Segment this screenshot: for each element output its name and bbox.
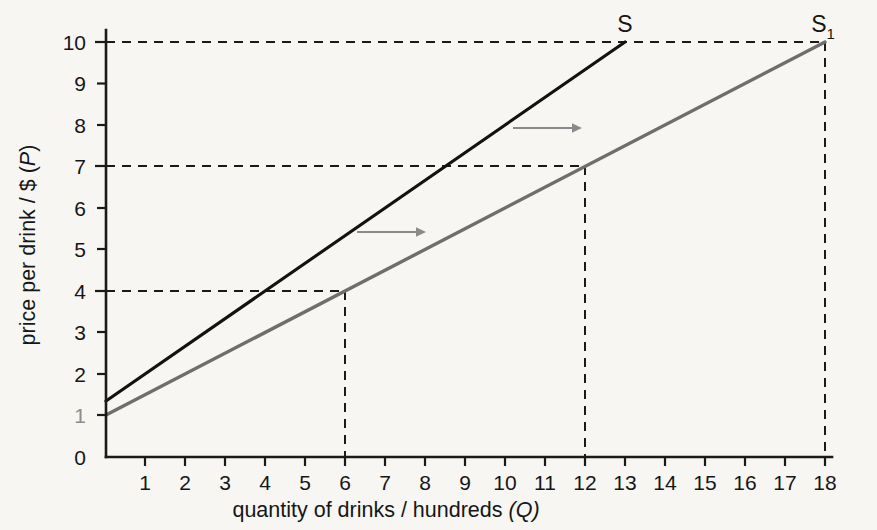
- x-tick-label: 14: [653, 471, 677, 494]
- y-tick-label: 4: [74, 280, 86, 303]
- x-tick-marks: [145, 457, 825, 466]
- y-tick-label: 2: [74, 363, 86, 386]
- y-axis-title: price per drink / $ (P): [16, 145, 40, 346]
- x-tick-label: 3: [219, 471, 231, 494]
- curve-label-s1-text: S: [811, 11, 826, 37]
- y-tick-label: 9: [74, 72, 86, 95]
- curve-label-s1-subscript: 1: [827, 25, 835, 42]
- y-tick-label: 6: [74, 197, 86, 220]
- chart-canvas: 10 9 8 7 6 5 4 3 2 1 0 1 2 3 4 5 6 7 8 9…: [0, 0, 877, 530]
- curve-label-s1: S1: [811, 11, 835, 42]
- x-tick-label: 10: [493, 471, 516, 494]
- y-tick-marks: [95, 42, 106, 415]
- y-tick-label: 3: [74, 321, 86, 344]
- x-tick-label: 17: [773, 471, 796, 494]
- x-tick-label: 13: [613, 471, 636, 494]
- y-tick-label: 7: [74, 155, 86, 178]
- x-axis-title: quantity of drinks / hundreds (Q): [232, 498, 539, 522]
- x-axis-title-text: quantity of drinks / hundreds: [232, 498, 508, 522]
- y-axis-title-text: price per drink / $ (: [16, 165, 40, 345]
- x-tick-label: 11: [534, 471, 556, 494]
- curve-labels: S S1: [617, 11, 835, 42]
- x-tick-label: 16: [733, 471, 756, 494]
- x-tick-labels: 1 2 3 4 5 6 7 8 9 10 11 12 13 14 15 16 1…: [139, 471, 837, 494]
- x-tick-label: 18: [813, 471, 836, 494]
- x-tick-label: 7: [379, 471, 391, 494]
- y-tick-label: 5: [74, 238, 86, 261]
- supply-curve-s1: [106, 42, 825, 415]
- curve-label-s: S: [617, 11, 632, 37]
- x-tick-label: 9: [459, 471, 471, 494]
- x-tick-label: 15: [693, 471, 716, 494]
- x-tick-label: 6: [339, 471, 351, 494]
- y-tick-label: 0: [74, 446, 86, 469]
- y-axis-title-close: ): [16, 145, 40, 152]
- y-tick-label: 10: [63, 31, 86, 54]
- lower-shift-arrow: [357, 227, 426, 237]
- x-axis-title-symbol: (Q): [509, 498, 540, 522]
- x-tick-label: 4: [259, 471, 271, 494]
- x-tick-label: 2: [179, 471, 191, 494]
- x-tick-label: 12: [573, 471, 596, 494]
- y-axis-title-symbol: P: [16, 151, 40, 166]
- y-tick-label-highlight: 1: [74, 404, 86, 427]
- y-tick-labels: 10 9 8 7 6 5 4 3 2 1 0: [63, 31, 87, 469]
- x-tick-label: 1: [139, 471, 151, 494]
- x-tick-label: 8: [419, 471, 431, 494]
- y-tick-label: 8: [74, 114, 86, 137]
- x-tick-label: 5: [299, 471, 311, 494]
- supply-shift-figure: 10 9 8 7 6 5 4 3 2 1 0 1 2 3 4 5 6 7 8 9…: [0, 0, 877, 530]
- supply-curve-s: [106, 42, 625, 401]
- shift-arrows: [357, 123, 582, 237]
- dashed-guides: [106, 42, 825, 457]
- curve-label-s-text: S: [617, 11, 632, 37]
- upper-shift-arrow: [513, 123, 582, 133]
